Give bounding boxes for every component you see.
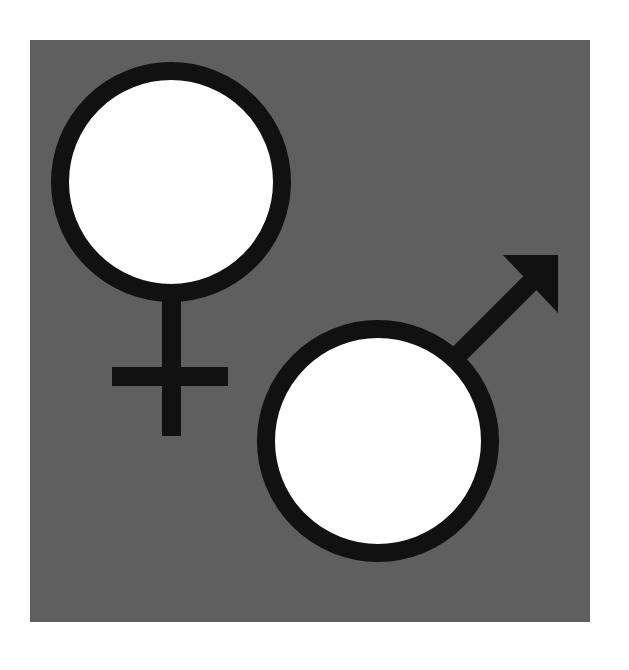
mars-icon xyxy=(266,255,558,553)
gender-symbols-graphic xyxy=(0,0,629,670)
venus-icon xyxy=(60,71,282,436)
